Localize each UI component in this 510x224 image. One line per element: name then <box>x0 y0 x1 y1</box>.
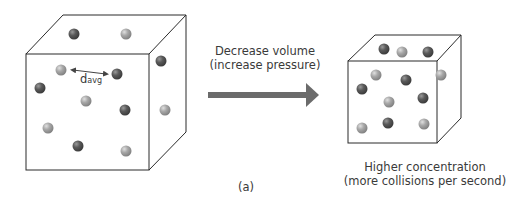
dark-molecule-icon <box>401 75 412 86</box>
panel-label: (a) <box>226 180 266 194</box>
light-molecule-icon <box>43 123 54 134</box>
dark-molecule-icon <box>383 118 394 129</box>
arrow-label: Decrease volume (increase pressure) <box>206 44 324 72</box>
light-molecule-icon <box>384 97 395 108</box>
light-molecule-icon <box>357 123 368 134</box>
cube-back-edges <box>26 15 186 170</box>
result-label-line1: Higher concentration <box>340 160 510 174</box>
large-volume-cube <box>26 15 186 170</box>
arrow-label-line2: (increase pressure) <box>206 58 324 72</box>
dark-molecule-icon <box>357 84 368 95</box>
result-label-line2: (more collisions per second) <box>340 174 510 188</box>
left-cube-molecules <box>35 29 171 157</box>
dark-molecule-icon <box>73 141 84 152</box>
right-cube-molecules <box>357 44 447 134</box>
dark-molecule-icon <box>379 44 390 55</box>
light-molecule-icon <box>419 119 430 130</box>
dark-molecule-icon <box>423 47 434 58</box>
cube-top-right-edge <box>149 15 186 54</box>
light-molecule-icon <box>160 105 171 116</box>
distance-label: davg <box>80 72 102 86</box>
dark-molecule-icon <box>418 93 429 104</box>
light-molecule-icon <box>397 47 408 58</box>
light-molecule-icon <box>121 29 132 40</box>
dark-molecule-icon <box>120 105 131 116</box>
result-label: Higher concentration (more collisions pe… <box>340 160 510 188</box>
process-arrow-icon <box>208 83 319 107</box>
arrow-label-line1: Decrease volume <box>206 44 324 58</box>
dark-molecule-icon <box>112 69 123 80</box>
light-molecule-icon <box>121 146 132 157</box>
dark-molecule-icon <box>35 83 46 94</box>
dark-molecule-icon <box>69 29 80 40</box>
light-molecule-icon <box>436 70 447 81</box>
light-molecule-icon <box>81 96 92 107</box>
dark-molecule-icon <box>156 56 167 67</box>
light-molecule-icon <box>371 70 382 81</box>
light-molecule-icon <box>56 65 67 76</box>
cube-top-right-edge <box>437 35 461 61</box>
